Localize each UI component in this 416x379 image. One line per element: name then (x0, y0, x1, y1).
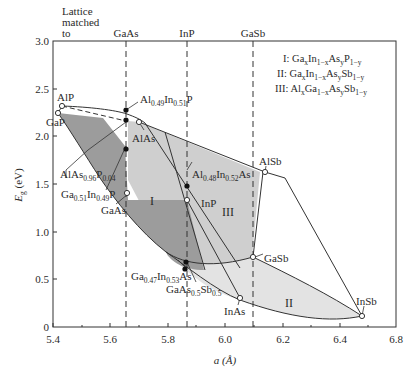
marker-inp (184, 197, 189, 202)
marker-gap (55, 110, 60, 115)
legend: I: GaxIn1−xAsyP1−y II: GaxIn1−xAsySb1−y … (275, 53, 367, 97)
y-axis-unit: (eV) (12, 168, 25, 191)
marker-alp (59, 103, 64, 108)
y-tick-label: 2.0 (35, 130, 49, 142)
x-axis-title: a (Å) (214, 354, 237, 367)
marker-alas (136, 119, 141, 124)
region-label-III: III (222, 205, 234, 219)
svg-text:Eg (eV): Eg (eV) (12, 168, 27, 203)
x-tick-label: 6.8 (389, 333, 403, 345)
lattice-note-3: to (62, 27, 71, 39)
legend-II: II: GaxIn1−xAsySb1−y (277, 68, 365, 82)
y-tick-label: 1.5 (35, 178, 49, 190)
bandgap-lattice-chart: 5.4 5.6 5.8 6.0 6.2 6.4 6.8 0 0.5 1.0 1.… (0, 0, 416, 379)
inp-ref-label: InP (179, 27, 194, 39)
label-gasb: GaSb (264, 252, 289, 264)
label-alp: AlP (57, 91, 74, 103)
label-gaas: GaAs (101, 204, 126, 216)
legend-I: I: GaxIn1−xAsyP1−y (283, 53, 362, 67)
x-tick-label: 6.4 (333, 333, 347, 345)
label-al049in051p: Al0.49In0.51P (140, 93, 193, 108)
label-alsb: AlSb (259, 155, 282, 167)
top-labels: Lattice matched to GaAs InP GaSb (62, 5, 266, 39)
x-tick-label: 5.6 (103, 333, 117, 345)
marker-gasb (250, 254, 255, 259)
label-ga051in049p: Ga0.51In0.49P (61, 188, 115, 203)
marker-al049in051p (123, 107, 128, 112)
gasb-ref-label: GaSb (241, 27, 266, 39)
marker-alsb (262, 169, 267, 174)
region-label-II: II (285, 296, 293, 310)
marker-ga051in049p (123, 146, 128, 151)
marker-al048in052as (184, 183, 189, 188)
marker-gaas (124, 190, 129, 195)
x-tick-label: 5.4 (46, 333, 60, 345)
y-axis-title: Eg (eV) (12, 168, 27, 203)
label-insb: InSb (356, 295, 377, 307)
y-tick-label: 0 (44, 321, 50, 333)
label-alas: AlAs (132, 132, 155, 144)
y-tick-label: 0.5 (35, 273, 49, 285)
marker-gaas05sb05 (183, 259, 188, 264)
x-tick-labels: 5.4 5.6 5.8 6.0 6.2 6.4 6.8 (46, 333, 403, 345)
region-label-I: I (150, 194, 154, 208)
x-tick-label: 6.0 (218, 333, 232, 345)
label-inp: InP (201, 197, 216, 209)
legend-III: III: AlxGa1−xAsySb1−y (275, 83, 367, 97)
y-tick-label: 1.0 (35, 226, 49, 238)
x-tick-label: 5.8 (161, 333, 175, 345)
gaas-ref-label: GaAs (113, 27, 138, 39)
x-tick-label: 6.2 (276, 333, 290, 345)
y-tick-label: 2.5 (35, 83, 49, 95)
y-tick-labels: 0 0.5 1.0 1.5 2.0 2.5 3.0 (35, 35, 49, 333)
label-gap: GaP (46, 116, 65, 128)
marker-insb (359, 313, 364, 318)
y-tick-label: 3.0 (35, 35, 49, 47)
marker-alas096p004 (123, 117, 128, 122)
marker-inas (237, 295, 242, 300)
label-inas: InAs (224, 305, 245, 317)
